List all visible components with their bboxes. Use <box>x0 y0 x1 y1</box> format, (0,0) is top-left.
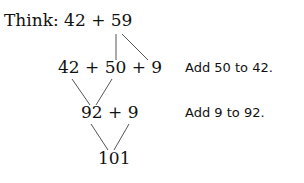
connector-lines <box>0 0 304 183</box>
line-92-to-101 <box>91 124 108 150</box>
step1-expression: 42 + 50 + 9 <box>58 57 162 77</box>
result-value: 101 <box>98 148 130 168</box>
step1-note: Add 50 to 42. <box>185 60 273 75</box>
step2-note: Add 9 to 92. <box>185 105 265 120</box>
line-9-to-101 <box>114 124 129 150</box>
step2-expression: 92 + 9 <box>81 102 139 122</box>
